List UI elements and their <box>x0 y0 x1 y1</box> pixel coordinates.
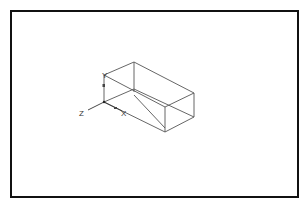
wireframe-drawing: Z X Y <box>0 0 308 208</box>
x-axis-line <box>104 102 122 111</box>
box-wireframe <box>104 62 194 132</box>
origin-marker <box>103 101 105 103</box>
y-axis-tick <box>103 84 106 87</box>
z-axis-line <box>88 102 104 110</box>
z-axis-label: Z <box>79 109 84 118</box>
y-axis-label: Y <box>102 71 108 80</box>
x-axis-tick <box>114 107 117 109</box>
ucs-axis-icon: Z X Y <box>79 71 127 118</box>
x-axis-label: X <box>121 109 127 118</box>
